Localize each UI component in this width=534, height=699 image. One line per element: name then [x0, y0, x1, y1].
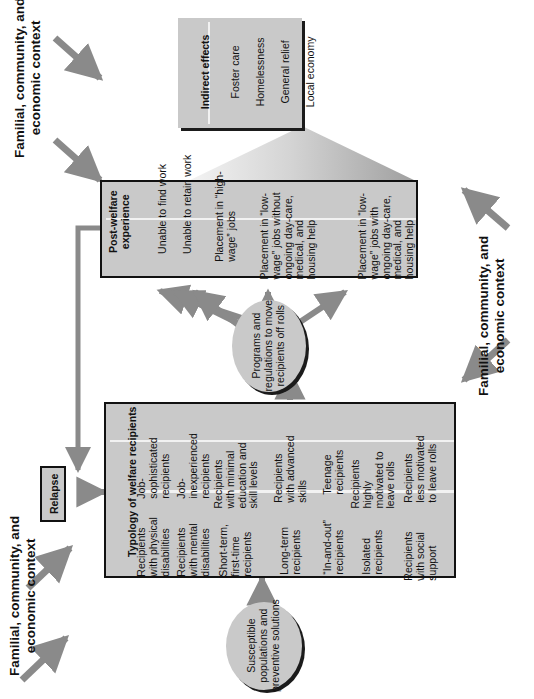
indirect-effects-item-0: Foster care: [230, 24, 242, 120]
susceptible-populations-ellipse: Susceptible populations and preventive s…: [226, 602, 302, 690]
context-label-right-text: Familial, community, and economic contex…: [476, 236, 507, 396]
context-arrow-top-1: [55, 38, 100, 78]
connector-postwelfare-to-relapse: [78, 228, 100, 470]
typology-bottom-0: Job-sophisticated recipients: [136, 429, 171, 499]
typology-top-0: Recipients with physical disabilities: [136, 507, 171, 577]
relapse-label: Relapse: [49, 460, 61, 528]
typology-bottom-2: Recipients with minimal education and sk…: [213, 439, 260, 509]
typology-bottom-5: Recipients highly motivated to leave rol…: [350, 439, 397, 509]
typology-top-5: Isolated recipients: [361, 505, 385, 575]
post-welfare-item-2: Placement in “high-wage” jobs: [214, 170, 238, 262]
indirect-effects-box: Indirect effects Foster care Homelessnes…: [178, 18, 302, 128]
typology-top-4: “In-and-out” recipients: [322, 505, 346, 575]
typology-top-3: Long-term recipients: [279, 505, 303, 575]
context-arrow-top-2: [55, 140, 100, 180]
susceptible-populations-label: Susceptible populations and preventive s…: [246, 598, 281, 694]
indirect-effects-item-1: Homelessness: [255, 24, 267, 120]
typology-top-1: Recipients with mental disabilities: [176, 507, 211, 577]
post-welfare-item-1: Unable to retain work: [182, 162, 194, 254]
diagram-canvas: Indirect effects Foster care Homelessnes…: [0, 0, 534, 699]
context-label-top-left: Familial, community, and economic contex…: [12, 0, 44, 168]
typology-top-6: Recipients with social support: [403, 511, 438, 581]
post-welfare-item-0: Unable to find work: [157, 162, 169, 254]
programs-regulations-label: Programs and regulations to move recipie…: [251, 297, 286, 395]
context-label-bottom-left: Familial, community, and economic contex…: [7, 503, 39, 689]
typology-top-2: Short-term, first-time recipients: [218, 507, 253, 577]
post-welfare-item-4: Placement in “low-wage” jobs with ongoin…: [357, 187, 416, 279]
post-welfare-item-3: Placement in “low-wage” jobs without ong…: [259, 187, 318, 279]
typology-box: Typology of welfare recipients Recipient…: [104, 402, 456, 578]
typology-bottom-4: Teenage recipients: [322, 425, 346, 495]
context-label-bottom-left-text: Familial, community, and economic contex…: [7, 516, 38, 676]
post-welfare-box: Post-welfare experience Unable to find w…: [100, 180, 418, 278]
context-label-right: Familial, community, and economic contex…: [476, 223, 508, 409]
context-label-top-left-text: Familial, community, and economic contex…: [12, 0, 43, 158]
typology-bottom-1: Job-inexperienced recipients: [176, 429, 211, 499]
programs-regulations-ellipse: Programs and regulations to move recipie…: [232, 300, 306, 392]
indirect-effects-item-3: Local economy: [305, 24, 317, 120]
indirect-effects-header: Indirect effects: [200, 24, 212, 120]
post-welfare-header: Post-welfare experience: [108, 184, 132, 260]
typology-bottom-3: Recipients with advanced skills: [273, 433, 308, 503]
typology-bottom-6: Recipients less motivated to leave rolls: [403, 433, 438, 503]
indirect-effects-item-2: General relief: [280, 24, 292, 120]
relapse-box: Relapse: [40, 466, 66, 522]
